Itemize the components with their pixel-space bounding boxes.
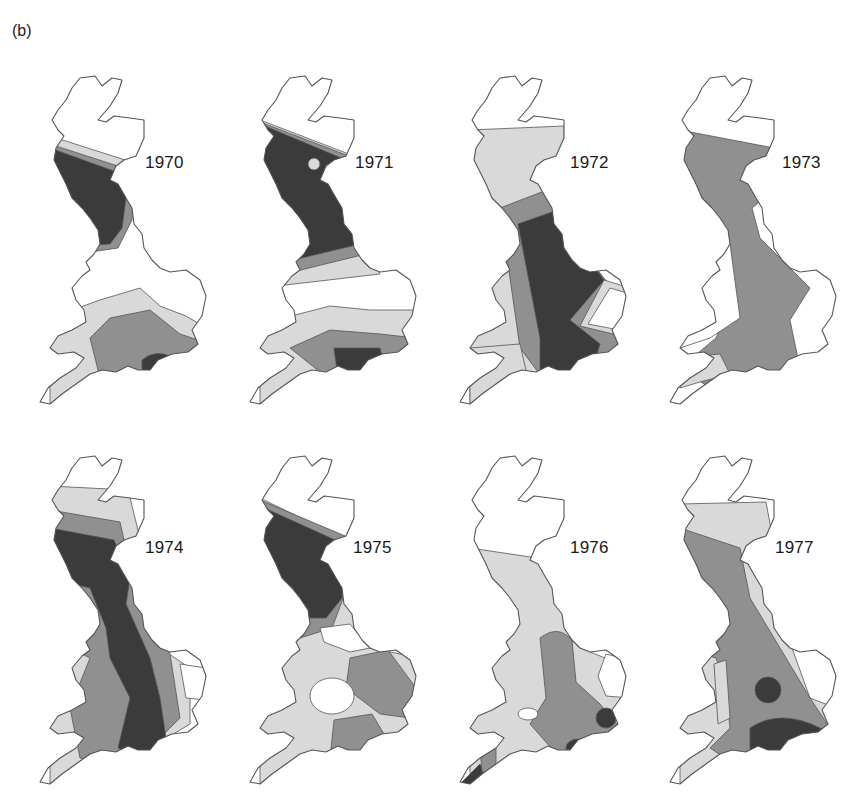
map-1972: 1972 — [430, 48, 645, 433]
panel-label: (b) — [12, 22, 32, 40]
year-label: 1975 — [353, 538, 392, 558]
gb-choropleth-1974 — [10, 428, 225, 810]
map-1973: 1973 — [640, 48, 855, 433]
year-label: 1970 — [145, 153, 184, 173]
gb-choropleth-1970 — [10, 48, 225, 433]
gb-choropleth-1972 — [430, 48, 645, 433]
map-1970: 1970 — [10, 48, 225, 433]
gb-choropleth-1976 — [430, 428, 645, 810]
year-label: 1973 — [782, 153, 821, 173]
map-1971: 1971 — [220, 48, 435, 433]
map-1977: 1977 — [640, 428, 855, 810]
year-label: 1976 — [570, 538, 609, 558]
map-1975: 1975 — [220, 428, 435, 810]
gb-choropleth-1977 — [640, 428, 855, 810]
gb-choropleth-1975 — [220, 428, 435, 810]
year-label: 1974 — [145, 538, 184, 558]
gb-choropleth-1971 — [220, 48, 435, 433]
year-label: 1977 — [775, 538, 814, 558]
gb-choropleth-1973 — [640, 48, 855, 433]
map-1974: 1974 — [10, 428, 225, 810]
map-1976: 1976 — [430, 428, 645, 810]
year-label: 1971 — [355, 153, 394, 173]
year-label: 1972 — [570, 153, 609, 173]
